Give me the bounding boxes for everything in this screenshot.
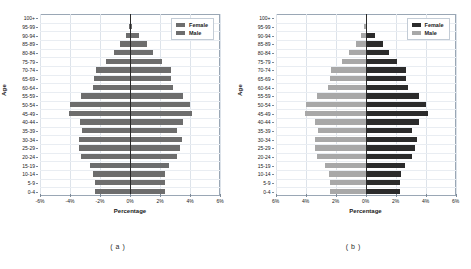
x-axis-tick-label: 0%: [126, 198, 133, 204]
bar-male: [342, 59, 366, 64]
caption-a: ( a ): [0, 243, 236, 250]
y-axis-tick-label: 95-99: [258, 24, 271, 30]
bar-male: [315, 119, 365, 124]
y-axis-tick-mark: [36, 174, 38, 175]
y-axis-tick-mark: [272, 27, 274, 28]
bar-female: [130, 145, 180, 150]
bar-female: [366, 119, 419, 124]
bar-female: [130, 102, 190, 107]
y-axis-tick-mark: [272, 105, 274, 106]
y-axis-tick-label: 10-14: [22, 171, 35, 177]
bar-male: [305, 111, 366, 116]
caption-b: ( b ): [236, 243, 471, 250]
y-axis-tick-label: 35-39: [22, 128, 35, 134]
bar-male: [79, 145, 130, 150]
bar-male: [331, 67, 366, 72]
y-axis-tick-label: 80-84: [22, 50, 35, 56]
bar-male: [120, 41, 130, 46]
bar-male: [328, 85, 366, 90]
y-axis-tick-label: 60-64: [22, 85, 35, 91]
y-axis-tick-mark: [36, 192, 38, 193]
bar-female: [366, 76, 407, 81]
bar-female: [366, 93, 419, 98]
y-axis-tick-mark: [272, 18, 274, 19]
y-axis-tick-mark: [272, 36, 274, 37]
y-axis-tick-label: 95-99: [22, 24, 35, 30]
y-axis-tick-mark: [272, 148, 274, 149]
y-axis-tick-mark: [272, 157, 274, 158]
bar-male: [106, 59, 130, 64]
chart-a: Age 0-45-910-1415-1920-2425-2930-3435-39…: [0, 0, 236, 236]
y-axis-tick-label: 15-19: [22, 163, 35, 169]
x-axis-tick-label: 4%: [186, 198, 193, 204]
y-axis-tick-label: 30-34: [22, 137, 35, 143]
bar-male: [80, 119, 130, 124]
y-axis-labels-a: 0-45-910-1415-1920-2425-2930-3435-3940-4…: [0, 14, 38, 196]
bar-female: [366, 67, 407, 72]
bar-female: [366, 41, 383, 46]
x-axis-tick-mark: [190, 194, 191, 197]
x-axis-title-a: Percentage: [40, 208, 220, 214]
y-axis-tick-label: 55-59: [22, 93, 35, 99]
y-axis-tick-mark: [272, 114, 274, 115]
x-axis-tick-mark: [100, 194, 101, 197]
bar-male: [96, 67, 131, 72]
bar-male: [114, 50, 131, 55]
y-axis-tick-mark: [36, 18, 38, 19]
y-axis-tick-mark: [272, 192, 274, 193]
y-axis-tick-mark: [272, 62, 274, 63]
x-axis-tick-mark: [456, 194, 457, 197]
bar-male: [315, 137, 366, 142]
y-axis-tick-label: 45-49: [22, 111, 35, 117]
y-axis-tick-label: 45-49: [258, 111, 271, 117]
y-axis-tick-mark: [272, 122, 274, 123]
y-axis-tick-label: 100+: [24, 15, 35, 21]
x-axis-tick-label: 4%: [422, 198, 429, 204]
y-axis-tick-mark: [272, 96, 274, 97]
legend-item: Male: [412, 30, 444, 36]
y-axis-tick-mark: [36, 70, 38, 71]
y-axis-tick-label: 85-89: [22, 41, 35, 47]
bar-female: [130, 128, 177, 133]
bar-female: [366, 180, 401, 185]
bar-female: [130, 85, 173, 90]
y-axis-tick-label: 5-9: [263, 180, 270, 186]
x-axis-tick-label: 0%: [362, 198, 369, 204]
bar-female: [130, 154, 177, 159]
y-axis-tick-label: 0-4: [28, 189, 35, 195]
bar-male: [330, 180, 365, 185]
bar-male: [330, 76, 366, 81]
bar-male: [356, 41, 366, 46]
panel-b: Age 0-45-910-1415-1920-2425-2930-3435-39…: [236, 0, 471, 269]
y-axis-tick-label: 65-69: [258, 76, 271, 82]
x-axis-tick-mark: [220, 194, 221, 197]
x-axis-tick-mark: [426, 194, 427, 197]
bar-female: [130, 93, 183, 98]
y-axis-tick-label: 25-29: [22, 145, 35, 151]
legend-swatch-icon: [412, 31, 421, 35]
bar-female: [366, 111, 428, 116]
y-axis-tick-mark: [36, 53, 38, 54]
bar-female: [366, 102, 426, 107]
legend-label: Female: [425, 22, 444, 28]
y-axis-tick-label: 50-54: [258, 102, 271, 108]
x-axis-tick-mark: [40, 194, 41, 197]
bar-female: [130, 119, 183, 124]
bar-male: [79, 137, 130, 142]
bar-female: [366, 145, 416, 150]
y-axis-tick-label: 20-24: [258, 154, 271, 160]
bar-male: [318, 128, 366, 133]
chart-b: Age 0-45-910-1415-1920-2425-2930-3435-39…: [236, 0, 471, 236]
panel-a: Age 0-45-910-1415-1920-2425-2930-3435-39…: [0, 0, 236, 269]
y-axis-tick-mark: [272, 53, 274, 54]
y-axis-tick-mark: [272, 88, 274, 89]
bar-male: [306, 102, 366, 107]
bar-female: [366, 137, 418, 142]
legend-label: Female: [189, 22, 208, 28]
gridline-vertical: [220, 14, 221, 196]
y-axis-tick-label: 75-79: [258, 59, 271, 65]
y-axis-tick-label: 40-44: [258, 119, 271, 125]
x-axis-tick-mark: [70, 194, 71, 197]
bar-male: [349, 50, 366, 55]
plot-area-a: FemaleMale: [40, 14, 220, 196]
